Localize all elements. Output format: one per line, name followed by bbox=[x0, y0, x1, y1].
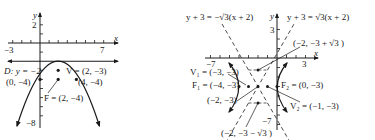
x-axis-label: x bbox=[113, 33, 118, 43]
asymptote-negative-label: y + 3 = −√3(x + 2) bbox=[186, 12, 253, 22]
parabola-graph: y x −3 7 2 −8 D: y = −2 V = (2, −3) (0, … bbox=[3, 10, 118, 128]
directrix-label: D: y = −2 bbox=[3, 66, 41, 76]
y-axis-label: y bbox=[32, 10, 37, 20]
hyperbola-graph: y x −7 3 3 −7 y + 3 = bbox=[186, 11, 349, 140]
figure: y x −3 7 2 −8 D: y = −2 V = (2, −3) (0, … bbox=[0, 0, 375, 140]
y-axis-label: y bbox=[269, 11, 274, 21]
asymptote-positive-label: y + 3 = √3(x + 2) bbox=[287, 12, 349, 22]
v1-point bbox=[247, 85, 250, 88]
point-4-neg4-label: (4, −4) bbox=[78, 77, 103, 87]
bottom-point-label: (−2, −3 − √3 ) bbox=[221, 128, 272, 138]
y-tick-bottom: −8 bbox=[26, 118, 36, 128]
focus-label: F = (2, −4) bbox=[44, 93, 83, 103]
f2-point bbox=[276, 85, 279, 88]
x-tick-neg: −3 bbox=[4, 45, 14, 55]
v2-label: V₂ = (−1, −3) bbox=[290, 101, 339, 111]
center-label: (−2, −3) bbox=[207, 95, 237, 105]
y-tick-bottom: −7 bbox=[262, 116, 272, 126]
point-0-neg4-label: (0, −4) bbox=[6, 77, 31, 87]
y-tick-top: 2 bbox=[32, 20, 37, 30]
point-0-neg4 bbox=[38, 78, 41, 81]
y-tick-top: 3 bbox=[270, 25, 275, 35]
x-tick-pos: 3 bbox=[302, 59, 307, 69]
vertex-point bbox=[57, 69, 60, 72]
vertex-label: V = (2, −3) bbox=[66, 66, 106, 76]
focus-leader bbox=[48, 79, 58, 93]
top-point-label: (−2, −3 + √3 ) bbox=[293, 38, 344, 48]
x-tick-pos: 7 bbox=[100, 45, 105, 55]
x-axis-label: x bbox=[313, 48, 318, 58]
f1-label: F₁ = (−4, −3) bbox=[192, 80, 239, 90]
f2-label: F₂ = (0, −3) bbox=[281, 80, 323, 90]
v1-label: V₁ = (−3, −3) bbox=[190, 67, 239, 77]
